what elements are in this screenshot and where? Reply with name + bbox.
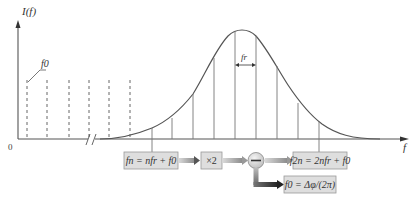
input-frequency-box: fn = nfr + f0 bbox=[124, 152, 178, 169]
svg-text:×2: ×2 bbox=[206, 155, 217, 166]
y-axis bbox=[16, 20, 21, 139]
doubler-box: ×2 bbox=[201, 152, 222, 169]
second-harmonic-box: f2n = 2nfr + f0 bbox=[290, 152, 351, 169]
gaussian-envelope bbox=[100, 30, 380, 139]
f0-leader-line bbox=[28, 70, 46, 82]
svg-text:f0 = Δφ/(2π): f0 = Δφ/(2π) bbox=[285, 179, 336, 191]
arrow-to-doubler bbox=[179, 156, 200, 165]
x-axis-label: f bbox=[403, 141, 408, 153]
offset-output-box: f0 = Δφ/(2π) bbox=[284, 176, 336, 193]
subtractor-node bbox=[248, 153, 264, 169]
y-axis-label: I(f) bbox=[21, 5, 36, 18]
svg-text:fn = nfr + f0: fn = nfr + f0 bbox=[126, 155, 177, 166]
fr-label: fr bbox=[241, 52, 248, 62]
x-axis bbox=[18, 134, 409, 145]
f0-marker-label: f0 bbox=[41, 58, 49, 69]
y-axis-arrow-icon bbox=[16, 20, 21, 28]
svg-text:f2n = 2nfr + f0: f2n = 2nfr + f0 bbox=[290, 155, 351, 166]
low-frequency-comb-lines bbox=[27, 80, 130, 139]
frequency-comb-diagram: I(f) f 0 f0 bbox=[0, 0, 415, 202]
arrow-to-subtractor bbox=[223, 156, 248, 165]
comb-lines bbox=[152, 31, 319, 153]
arrow-to-offset-output bbox=[254, 168, 285, 189]
fr-spacing-indicator bbox=[235, 63, 256, 67]
origin-label: 0 bbox=[8, 142, 13, 152]
